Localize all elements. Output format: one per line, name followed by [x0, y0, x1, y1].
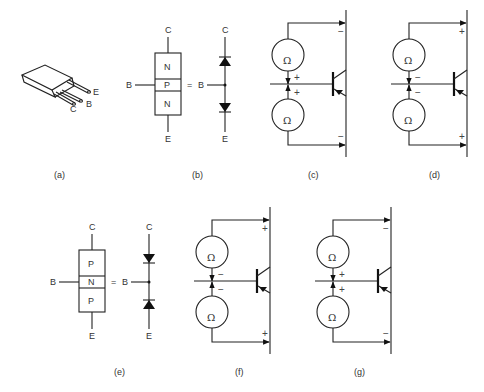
sign-base-top: − [415, 72, 421, 83]
layer-n-top: N [164, 62, 171, 72]
transistor-package-icon [22, 65, 91, 105]
caption-a: (a) [54, 170, 65, 180]
lead-label-b: B [86, 99, 92, 109]
sign-base-bottom: + [294, 87, 300, 98]
sign-collector: − [338, 26, 344, 37]
terminal-label-e: E [165, 134, 171, 144]
panel-a-transistor-package: C B E (a) [22, 65, 99, 180]
terminal-label-b: B [126, 80, 132, 90]
emitter-arrow-icon [456, 90, 464, 95]
transistor-diagram: C B E (a) C N P N B E = C B E [0, 0, 484, 392]
sign-base-bottom: − [218, 284, 224, 295]
diode-icon [143, 300, 155, 309]
diode-label-e: E [146, 331, 152, 341]
caption-f: (f) [235, 367, 244, 377]
layer-n-middle: N [88, 277, 95, 287]
emitter-arrow-icon [259, 287, 267, 292]
emitter-arrow-icon [335, 90, 343, 95]
sign-base-top: + [339, 269, 345, 280]
sign-base-bottom: + [339, 284, 345, 295]
diode-label-b: B [198, 80, 204, 90]
terminal-label-c: C [89, 222, 96, 232]
ohm-symbol: Ω [328, 312, 336, 323]
panel-c-ohmmeter-test: Ω Ω − + + − (c) [270, 10, 346, 180]
panel-g-ohmmeter-test: Ω Ω − + + − (g) [315, 207, 391, 377]
ohm-symbol: Ω [283, 115, 291, 126]
caption-e: (e) [114, 367, 125, 377]
emitter-arrow-icon [380, 287, 388, 292]
equals-sign: = [111, 277, 116, 287]
ohm-symbol: Ω [404, 55, 412, 66]
layer-n-bottom: N [164, 99, 171, 109]
sign-base-top: + [294, 72, 300, 83]
sign-collector: + [459, 26, 465, 37]
layer-p-bottom: P [88, 296, 94, 306]
lead-label-c: C [70, 104, 77, 114]
terminal-label-c: C [165, 25, 172, 35]
panel-d-ohmmeter-test: Ω Ω + − − + (d) [391, 10, 467, 180]
panel-e-pnp-structure: C P N P B E = C B E (e) [50, 222, 155, 377]
diode-icon [219, 57, 231, 66]
equals-sign: = [187, 80, 192, 90]
sign-emitter: − [338, 131, 344, 142]
diode-icon [143, 254, 155, 263]
layer-p-top: P [88, 259, 94, 269]
sign-base-bottom: − [415, 87, 421, 98]
caption-g: (g) [354, 367, 365, 377]
lead-label-e: E [93, 87, 99, 97]
diode-label-b: B [122, 277, 128, 287]
ohm-symbol: Ω [404, 115, 412, 126]
diode-label-c: C [146, 222, 153, 232]
terminal-label-e: E [89, 331, 95, 341]
ohm-symbol: Ω [283, 55, 291, 66]
ohm-symbol: Ω [207, 312, 215, 323]
sign-emitter: + [459, 131, 465, 142]
caption-d: (d) [429, 170, 440, 180]
ohm-symbol: Ω [207, 252, 215, 263]
layer-p-middle: P [164, 80, 170, 90]
diode-label-c: C [222, 25, 229, 35]
diode-label-e: E [222, 134, 228, 144]
diode-equivalent-pnp: C B E [122, 222, 155, 341]
diode-equivalent-npn: C B E [198, 25, 231, 144]
panel-b-npn-structure: C N P N B E = C B E (b) [126, 25, 231, 180]
sign-emitter: − [383, 328, 389, 339]
diode-icon [219, 103, 231, 112]
sign-base-top: − [218, 269, 224, 280]
caption-c: (c) [308, 170, 319, 180]
panel-f-ohmmeter-test: Ω Ω + − − + (f) [194, 207, 270, 377]
terminal-label-b: B [50, 277, 56, 287]
ohm-symbol: Ω [328, 252, 336, 263]
sign-collector: − [383, 223, 389, 234]
sign-emitter: + [262, 328, 268, 339]
sign-collector: + [262, 223, 268, 234]
caption-b: (b) [192, 170, 203, 180]
